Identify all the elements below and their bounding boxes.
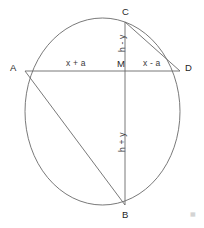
segment-label-AM: x + a [66,59,86,68]
segment-label-MD: x - a [143,59,161,68]
segment-label-MB: h + y [118,132,127,152]
vertex-label-C: C [122,7,129,17]
vertex-label-A: A [10,63,17,73]
circle-outline [25,18,180,205]
vertex-label-M: M [117,59,125,69]
vertex-label-B: B [122,210,129,220]
geometry-canvas [0,0,204,228]
watermark: ▦ [190,211,196,217]
segment-label-MC: h - y [118,34,127,52]
segment-AB [25,71,125,205]
vertex-label-D: D [185,63,192,73]
geometry-figure: A C D M B x + a x - a h - y h + y ▦ [0,0,204,228]
